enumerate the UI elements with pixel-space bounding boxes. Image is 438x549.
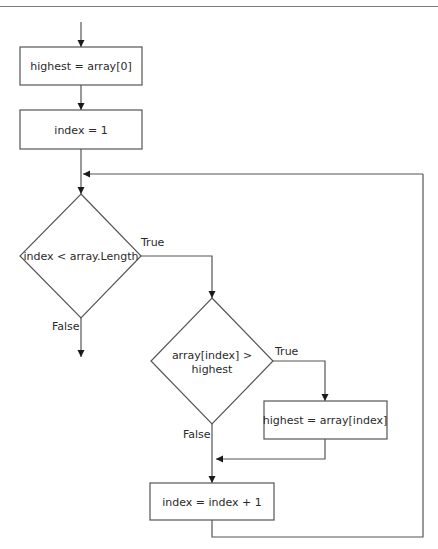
compare-false-label: False bbox=[183, 428, 211, 441]
compare-true-label: True bbox=[275, 345, 298, 358]
loop-check-label: index < array.Length bbox=[23, 249, 138, 264]
loop-true-label: True bbox=[141, 236, 164, 249]
compare-true-connector bbox=[273, 361, 325, 401]
update-highest-label: highest = array[index] bbox=[263, 413, 388, 428]
flowchart-canvas bbox=[0, 0, 438, 549]
compare-label-line2: highest bbox=[192, 362, 233, 377]
increment-label: index = index + 1 bbox=[162, 495, 262, 510]
init-highest-label: highest = array[0] bbox=[30, 59, 131, 74]
loop-false-label: False bbox=[52, 320, 80, 333]
merge-connector bbox=[216, 439, 325, 459]
loop-true-connector bbox=[141, 256, 212, 298]
init-index-label: index = 1 bbox=[54, 123, 107, 138]
compare-label-line1: array[index] > bbox=[172, 348, 252, 363]
